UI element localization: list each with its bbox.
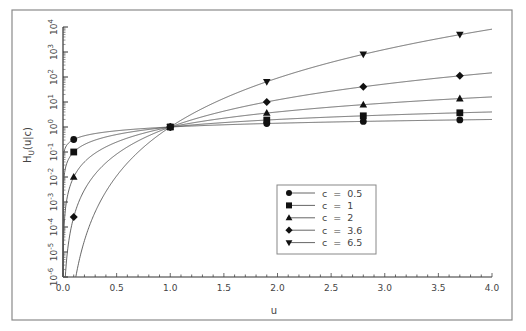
x-tick-label: 3.5 [431,283,445,293]
x-tick-label: 2.5 [324,283,338,293]
x-tick-label: 2.0 [270,283,285,293]
x-tick-label: 1.5 [217,283,231,293]
square-marker [456,109,463,116]
x-tick-label: 0.5 [109,283,123,293]
x-tick-label: 1.0 [163,283,178,293]
y-axis-label-main: H [22,155,33,163]
x-axis-label: u [271,305,277,316]
square-marker [70,149,77,156]
circle-marker [286,190,292,196]
circle-marker [70,136,77,143]
square-marker [286,202,292,208]
chart: 0.00.51.01.52.02.53.03.54.010-610-510-41… [0,0,526,331]
legend-item-label: c = 0.5 [322,188,362,199]
legend: c = 0.5c = 1c = 2c = 3.6c = 6.5 [277,185,376,254]
circle-marker [456,117,463,124]
legend-item-label: c = 2 [322,212,353,223]
outer-frame [12,10,512,320]
legend-item-label: c = 1 [322,200,353,211]
square-marker [360,112,367,119]
y-axis-label-rest: (u|c) [22,127,34,150]
legend-item-label: c = 6.5 [322,237,362,248]
x-tick-label: 4.0 [485,283,500,293]
square-marker [263,117,270,124]
legend-item-label: c = 3.6 [322,225,362,236]
x-tick-label: 3.0 [378,283,393,293]
